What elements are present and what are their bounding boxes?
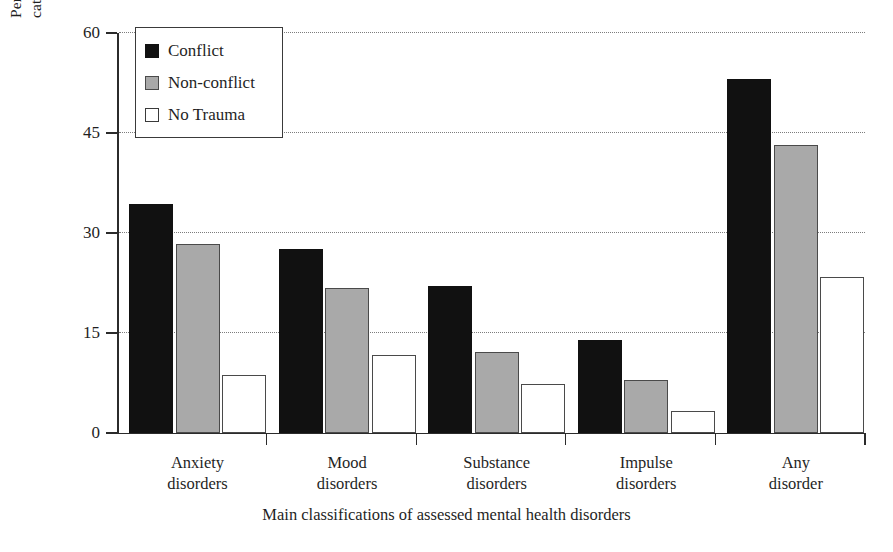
y-axis-title: Percentage of respondents in each trauma…	[0, 0, 60, 440]
x-axis-title: Main classifications of assessed mental …	[0, 505, 893, 525]
bar-conflict-1	[279, 249, 323, 433]
bar-notrauma-3	[671, 411, 715, 433]
x-tick-label-line: Substance	[417, 452, 577, 473]
x-tick-mark	[416, 433, 417, 445]
x-tick-label-line: disorders	[417, 473, 577, 494]
bar-conflict-2	[428, 286, 472, 433]
bar-chart-figure: Percentage of respondents in each trauma…	[0, 0, 893, 552]
x-tick-label-line: Anxiety	[118, 452, 278, 473]
x-tick-label-line: disorders	[118, 473, 278, 494]
legend-swatch-conflict-icon	[145, 44, 159, 58]
y-axis-title-line-2: category meeting the criteria for disord…	[27, 0, 45, 18]
legend-swatch-no-trauma-icon	[145, 108, 159, 122]
y-tick-label: 15	[40, 323, 100, 343]
x-tick-label-line: disorders	[566, 473, 726, 494]
y-tick-mark	[106, 232, 117, 233]
y-tick-label: 30	[40, 223, 100, 243]
bar-nonconflict-4	[774, 145, 818, 433]
y-tick-mark	[106, 132, 117, 133]
y-tick-mark	[106, 32, 117, 33]
legend-label-no-trauma: No Trauma	[168, 105, 245, 125]
x-tick-label: Anydisorder	[716, 452, 876, 494]
legend-item-no-trauma[interactable]: No Trauma	[145, 99, 282, 131]
bar-notrauma-0	[222, 375, 266, 433]
bar-nonconflict-0	[176, 244, 220, 433]
bar-conflict-4	[727, 79, 771, 433]
x-tick-mark	[864, 433, 865, 445]
legend-swatch-non-conflict-icon	[145, 76, 159, 90]
y-tick-label: 60	[40, 23, 100, 43]
x-tick-label: Mooddisorders	[267, 452, 427, 494]
x-tick-label-line: Impulse	[566, 452, 726, 473]
bar-notrauma-2	[521, 384, 565, 433]
legend-item-non-conflict[interactable]: Non-conflict	[145, 67, 282, 99]
x-tick-label-line: disorder	[716, 473, 876, 494]
x-tick-mark	[565, 433, 566, 445]
x-tick-label-line: Mood	[267, 452, 427, 473]
x-tick-mark	[266, 433, 267, 445]
y-axis-title-line-1: Percentage of respondents in each trauma	[7, 0, 25, 18]
y-tick-mark	[106, 432, 117, 433]
bar-nonconflict-3	[624, 380, 668, 433]
bar-conflict-3	[578, 340, 622, 433]
bar-notrauma-1	[372, 355, 416, 433]
x-tick-label: Impulsedisorders	[566, 452, 726, 494]
legend-item-conflict[interactable]: Conflict	[145, 35, 282, 67]
y-tick-mark	[106, 332, 117, 333]
bar-notrauma-4	[820, 277, 864, 433]
bar-nonconflict-1	[325, 288, 369, 433]
x-tick-label: Substancedisorders	[417, 452, 577, 494]
x-tick-mark	[715, 433, 716, 445]
x-tick-label-line: disorders	[267, 473, 427, 494]
bar-conflict-0	[129, 204, 173, 433]
legend-label-conflict: Conflict	[168, 41, 224, 61]
chart-legend: Conflict Non-conflict No Trauma	[135, 27, 283, 138]
x-tick-label-line: Any	[716, 452, 876, 473]
x-tick-label: Anxietydisorders	[118, 452, 278, 494]
y-tick-label: 0	[40, 423, 100, 443]
y-tick-label: 45	[40, 123, 100, 143]
bar-nonconflict-2	[475, 352, 519, 433]
legend-label-non-conflict: Non-conflict	[168, 73, 255, 93]
